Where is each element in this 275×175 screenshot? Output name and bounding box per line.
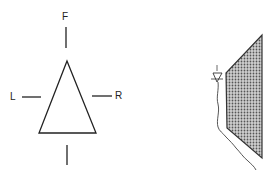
orientation-diagram: [22, 27, 112, 165]
cross-section-diagram: [211, 35, 262, 170]
direction-triangle: [39, 61, 96, 133]
label-front: F: [62, 12, 68, 22]
water-level-triangle-icon: [213, 73, 222, 82]
label-left: L: [10, 92, 16, 102]
diagram-canvas: [0, 0, 275, 175]
stippled-region: [226, 35, 262, 158]
label-right: R: [115, 91, 122, 101]
